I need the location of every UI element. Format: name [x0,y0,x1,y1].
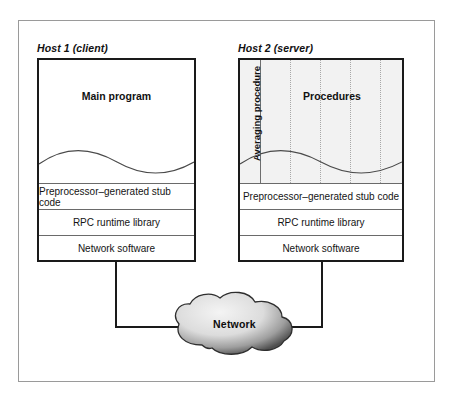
host2-layer-rpc-runtime: RPC runtime library [240,209,402,235]
host1-layer-rpc-runtime: RPC runtime library [39,209,194,235]
network-cloud: Network [172,291,297,359]
diagram-canvas: Host 1 (client) Main program Preprocesso… [0,0,453,400]
connector-host1-vertical [115,262,117,328]
host2-layer-rpc-runtime-label: RPC runtime library [277,217,364,228]
host2-procedures-label: Procedures [262,90,402,102]
host2-wavy-divider [240,148,402,184]
host2-layer-stub-code-label: Preprocessor–generated stub code [243,191,399,202]
host1-box: Main program Preprocessor–generated stub… [37,58,196,262]
network-cloud-label: Network [172,318,297,330]
host1-main-program-label: Main program [39,90,194,102]
host1-layer-stub-code-label: Preprocessor–generated stub code [39,186,194,208]
host1-layer-network-software: Network software [39,235,194,260]
host2-box: Averaging procedure Procedures Preproces… [238,58,404,262]
host2-layer-network-software-label: Network software [282,243,359,254]
host1-layer-rpc-runtime-label: RPC runtime library [73,217,160,228]
host2-title: Host 2 (server) [238,42,313,54]
host1-title: Host 1 (client) [37,42,108,54]
host1-layer-stub-code: Preprocessor–generated stub code [39,183,194,209]
host1-layer-network-software-label: Network software [78,243,155,254]
host2-layer-stub-code: Preprocessor–generated stub code [240,183,402,209]
host1-wavy-divider [39,148,194,184]
connector-host2-vertical [321,262,323,328]
host2-layer-network-software: Network software [240,235,402,260]
